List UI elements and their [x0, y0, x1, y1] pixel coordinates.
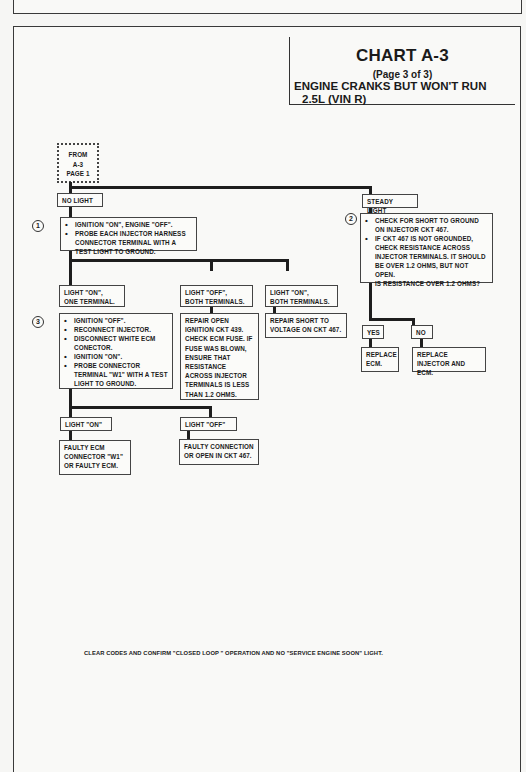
- start-line: FROM: [63, 150, 93, 160]
- footer-note: CLEAR CODES AND CONFIRM "CLOSED LOOP " O…: [84, 650, 383, 656]
- connector-line: [69, 186, 371, 189]
- step-3-marker: 3: [32, 316, 44, 328]
- step-number: 1: [36, 222, 40, 229]
- start-line: PAGE 1: [63, 169, 93, 179]
- step-3-box: IGNITION "OFF". RECONNECT INJECTOR. DISC…: [59, 313, 173, 389]
- start-line: A-3: [63, 160, 93, 170]
- connector-line: [69, 406, 211, 409]
- light-on-box: LIGHT "ON": [60, 417, 112, 431]
- light-on-both-result: REPAIR SHORT TO VOLTAGE ON CKT 467.: [270, 317, 341, 333]
- repair-short-box: REPAIR SHORT TO VOLTAGE ON CKT 467.: [265, 313, 347, 338]
- yes-label: YES: [367, 329, 380, 336]
- light-off-box: LIGHT "OFF": [180, 417, 237, 431]
- chart-engine: 2.5L (VIN R): [302, 93, 366, 105]
- step-number: 3: [36, 318, 40, 325]
- step-2-box: CHECK FOR SHORT TO GROUND ON INJECTOR CK…: [360, 213, 493, 283]
- branch-label: LIGHT "OFF",: [185, 288, 248, 297]
- chart-title: CHART A-3: [290, 46, 515, 66]
- branch-label: ONE TERMINAL.: [64, 297, 120, 306]
- branch-label: BOTH TERMINALS.: [185, 297, 248, 306]
- no-light-label: NO LIGHT: [62, 197, 93, 204]
- light-on-both-terminals-box: LIGHT "ON", BOTH TERMINALS.: [265, 285, 338, 307]
- question: IS RESISTANCE OVER 1.2 OHMS?: [365, 279, 488, 288]
- instruction: IGNITION "ON".: [64, 352, 168, 361]
- instruction: PROBE CONNECTOR TERMINAL "W1" WITH A TES…: [64, 361, 168, 388]
- steady-light-box: STEADY LIGHT: [362, 194, 418, 208]
- light-on-one-terminal-box: LIGHT "ON", ONE TERMINAL.: [59, 285, 125, 307]
- instruction: IGNITION "ON", ENGINE "OFF".: [65, 220, 192, 229]
- instruction: RECONNECT INJECTOR.: [64, 325, 168, 334]
- previous-page-frame: [13, 0, 522, 14]
- chart-page: (Page 3 of 3): [290, 69, 515, 80]
- connector-line: [210, 259, 213, 271]
- no-label: NO: [416, 329, 426, 336]
- branch-label: BOTH TERMINALS.: [270, 297, 333, 306]
- light-off-both-result: REPAIR OPEN IGNITION CKT 439. CHECK ECM …: [185, 317, 253, 398]
- chart-title-block: CHART A-3 (Page 3 of 3) ENGINE CRANKS BU…: [289, 37, 515, 105]
- branch-label: LIGHT "ON",: [64, 288, 120, 297]
- connector-line: [369, 318, 414, 321]
- step-1-box: IGNITION "ON", ENGINE "OFF". PROBE EACH …: [60, 217, 197, 251]
- replace-ecm-box: REPLACE ECM.: [361, 347, 399, 372]
- instruction: IF CKT 467 IS NOT GROUNDED, CHECK RESIST…: [365, 234, 488, 279]
- off-result: FAULTY CONNECTION OR OPEN IN CKT 467.: [184, 443, 254, 459]
- instruction: PROBE EACH INJECTOR HARNESS CONNECTOR TE…: [65, 229, 192, 256]
- connector-line: [69, 259, 288, 262]
- step-1-marker: 1: [32, 220, 44, 232]
- yes-box: YES: [362, 325, 384, 339]
- light-on-label: LIGHT "ON": [65, 421, 102, 428]
- branch-label: LIGHT "ON",: [270, 288, 333, 297]
- faulty-ecm-box: FAULTY ECM CONNECTOR "W1" OR FAULTY ECM.: [59, 440, 131, 475]
- chart-description: ENGINE CRANKS BUT WON'T RUN: [294, 80, 515, 92]
- chart-frame: [13, 26, 521, 772]
- no-light-box: NO LIGHT: [57, 193, 103, 207]
- connector-line: [286, 259, 289, 271]
- replace-injector-box: REPLACE INJECTOR AND ECM.: [412, 347, 486, 372]
- connector-line: [369, 283, 372, 320]
- light-off-label: LIGHT "OFF": [185, 421, 225, 428]
- instruction: CHECK FOR SHORT TO GROUND ON INJECTOR CK…: [365, 216, 488, 234]
- no-box: NO: [411, 325, 433, 339]
- faulty-connection-box: FAULTY CONNECTION OR OPEN IN CKT 467.: [179, 439, 259, 465]
- repair-open-ignition-box: REPAIR OPEN IGNITION CKT 439. CHECK ECM …: [180, 313, 259, 400]
- light-off-both-terminals-box: LIGHT "OFF", BOTH TERMINALS.: [180, 285, 253, 307]
- step-number: 2: [349, 215, 353, 222]
- instruction: IGNITION "OFF".: [64, 316, 168, 325]
- on-result: FAULTY ECM CONNECTOR "W1" OR FAULTY ECM.: [64, 444, 123, 469]
- start-box: FROM A-3 PAGE 1: [57, 143, 99, 183]
- instruction: DISCONNECT WHITE ECM CONECTOR.: [64, 334, 168, 352]
- yes-result: REPLACE ECM.: [366, 351, 397, 367]
- step-2-marker: 2: [345, 213, 357, 225]
